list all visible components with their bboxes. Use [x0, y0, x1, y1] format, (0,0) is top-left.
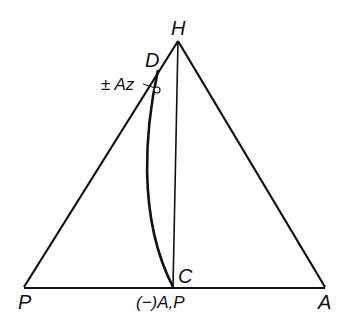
label-C: C: [178, 265, 193, 287]
label-base-mid: (−)A,P: [136, 293, 185, 312]
vertical-H-C: [173, 41, 178, 287]
label-P: P: [18, 291, 32, 313]
label-D: D: [145, 49, 159, 71]
label-azimuth: ± Az: [101, 75, 135, 94]
triangle-diagram: H D ± Az C P (−)A,P A: [0, 0, 351, 326]
label-H: H: [171, 17, 186, 39]
label-A: A: [317, 291, 331, 313]
curve-D-C: [147, 70, 173, 287]
circle-marker: [154, 87, 160, 93]
side-H-A: [178, 41, 325, 287]
